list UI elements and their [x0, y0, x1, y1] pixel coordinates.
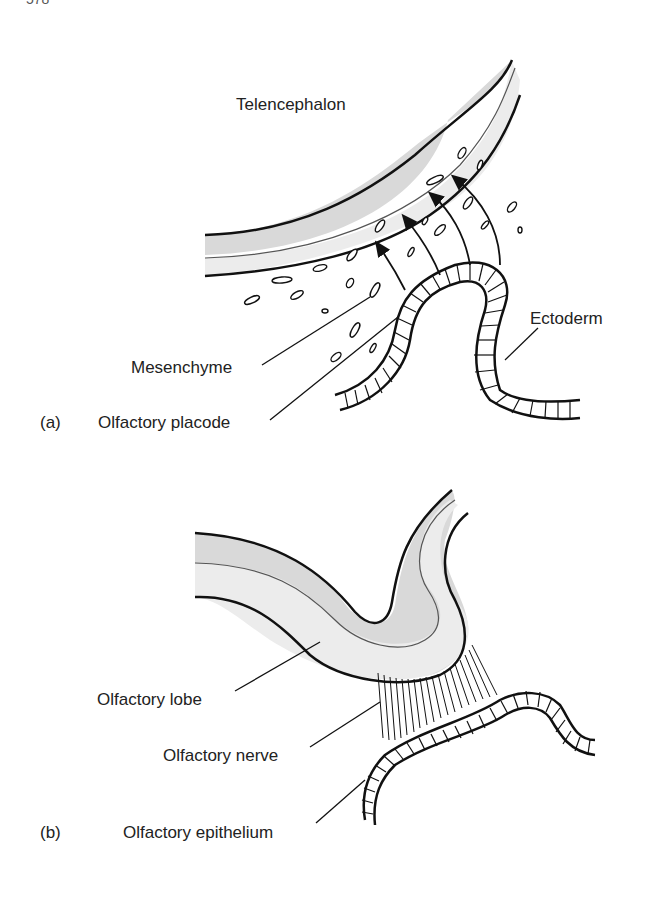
label-mesenchyme: Mesenchyme	[131, 358, 232, 377]
panel-b: Olfactory lobe Olfactory nerve Olfactory…	[40, 490, 595, 842]
panel-a: Telencephalon Mesenchyme Olfactory placo…	[40, 60, 603, 432]
label-olfactory-nerve: Olfactory nerve	[163, 746, 278, 765]
telencephalon-wall	[205, 60, 520, 276]
page-number: 578	[26, 0, 50, 7]
label-olfactory-epithelium: Olfactory epithelium	[123, 823, 273, 842]
olfactory-development-diagram: 578	[0, 0, 664, 906]
panel-a-letter: (a)	[40, 413, 61, 432]
leader-olfactory-epithelium	[316, 780, 365, 823]
panel-b-letter: (b)	[40, 823, 61, 842]
label-ectoderm: Ectoderm	[530, 309, 603, 328]
label-olfactory-placode: Olfactory placode	[98, 413, 230, 432]
leader-olfactory-nerve	[310, 702, 380, 747]
leader-ectoderm	[505, 328, 538, 360]
figure-page: 578	[0, 0, 664, 906]
olfactory-epithelium	[362, 691, 595, 825]
label-olfactory-lobe: Olfactory lobe	[97, 690, 202, 709]
olfactory-lobe	[195, 490, 469, 682]
label-telencephalon: Telencephalon	[236, 95, 346, 114]
olfactory-placode	[335, 262, 580, 418]
leader-olfactory-lobe	[235, 642, 320, 691]
